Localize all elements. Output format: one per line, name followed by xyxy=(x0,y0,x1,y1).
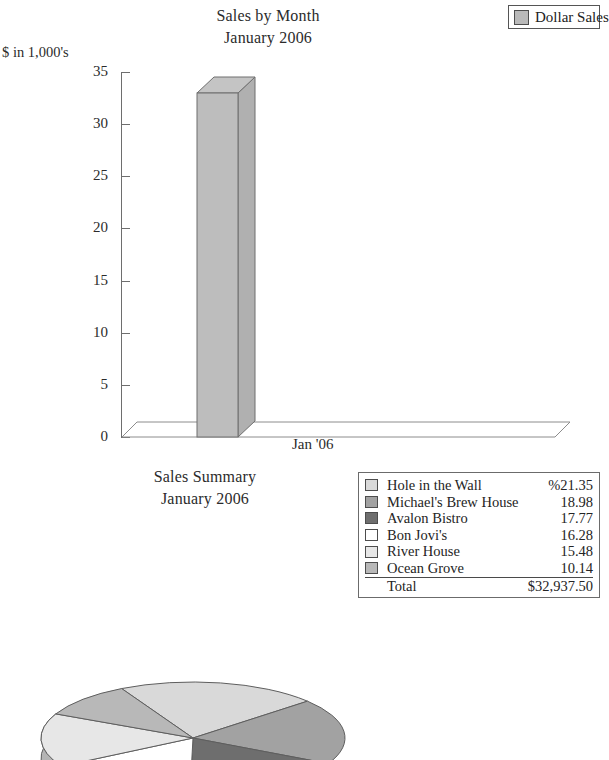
total-label: Total xyxy=(387,577,525,594)
row-name: Ocean Grove xyxy=(387,560,525,577)
row-value: %21.35 xyxy=(525,477,593,494)
table-row: Ocean Grove10.14 xyxy=(365,560,593,577)
x-axis-category-label: Jan '06 xyxy=(292,436,333,453)
row-swatch-cell xyxy=(365,477,387,494)
row-value: 10.14 xyxy=(525,560,593,577)
row-value: 17.77 xyxy=(525,510,593,527)
bar-side-face xyxy=(238,77,255,437)
row-value: 18.98 xyxy=(525,494,593,511)
row-swatch-cell xyxy=(365,560,387,577)
row-name: Hole in the Wall xyxy=(387,477,525,494)
pie-chart xyxy=(34,630,354,760)
pie-chart-title-line2: January 2006 xyxy=(105,488,305,510)
row-name: Bon Jovi's xyxy=(387,527,525,544)
pie-chart-title-line1: Sales Summary xyxy=(105,466,305,488)
table-row: Avalon Bistro17.77 xyxy=(365,510,593,527)
color-swatch-icon xyxy=(365,546,378,558)
sales-summary-table: Hole in the Wall%21.35Michael's Brew Hou… xyxy=(358,472,600,598)
total-value: $32,937.50 xyxy=(525,577,593,594)
table-row: Michael's Brew House18.98 xyxy=(365,494,593,511)
color-swatch-icon xyxy=(365,479,378,491)
summary-table-grid: Hole in the Wall%21.35Michael's Brew Hou… xyxy=(365,477,593,594)
row-swatch-cell xyxy=(365,494,387,511)
row-name: Avalon Bistro xyxy=(387,510,525,527)
bar-front-face xyxy=(197,93,238,437)
row-swatch-cell xyxy=(365,543,387,560)
color-swatch-icon xyxy=(365,496,378,508)
row-swatch-cell xyxy=(365,527,387,544)
color-swatch-icon xyxy=(365,562,378,574)
row-value: 16.28 xyxy=(525,527,593,544)
color-swatch-icon xyxy=(365,529,378,541)
pie-chart-title: Sales Summary January 2006 xyxy=(105,466,305,510)
table-row: Hole in the Wall%21.35 xyxy=(365,477,593,494)
total-spacer xyxy=(365,577,387,594)
table-total-row: Total$32,937.50 xyxy=(365,577,593,594)
row-name: Michael's Brew House xyxy=(387,494,525,511)
table-row: River House15.48 xyxy=(365,543,593,560)
row-swatch-cell xyxy=(365,510,387,527)
chart-floor xyxy=(122,422,570,437)
table-row: Bon Jovi's16.28 xyxy=(365,527,593,544)
row-name: River House xyxy=(387,543,525,560)
bar-chart-plot xyxy=(0,0,607,470)
color-swatch-icon xyxy=(365,512,378,524)
row-value: 15.48 xyxy=(525,543,593,560)
